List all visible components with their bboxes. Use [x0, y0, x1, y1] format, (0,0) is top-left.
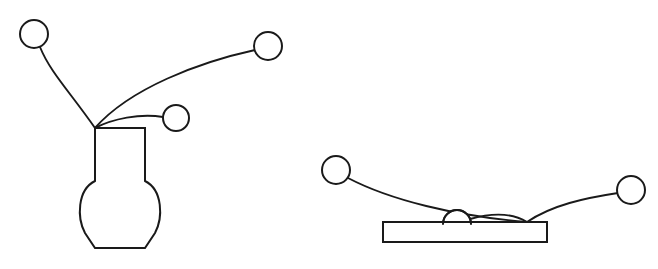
node-upper-right [254, 32, 282, 60]
node-left [322, 156, 350, 184]
diagram-canvas [0, 0, 658, 269]
table-outline [383, 222, 547, 242]
node-middle [163, 105, 189, 131]
line-art-figure [0, 0, 658, 269]
node-right [617, 176, 645, 204]
node-upper-left [20, 20, 48, 48]
